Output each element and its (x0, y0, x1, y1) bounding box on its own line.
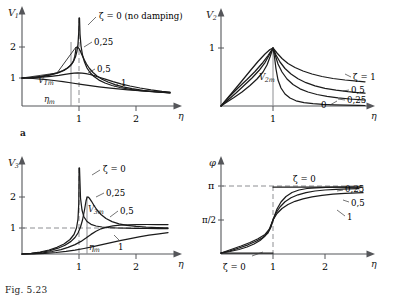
panel-d-ytick-pi: π (208, 180, 214, 191)
panel-d-curves (221, 187, 363, 253)
curve-d-zeta-025 (221, 187, 359, 253)
panel-d-curve-label-05: 0,5 (351, 198, 365, 208)
panel-a-curve-label-1: 1 (121, 78, 126, 88)
figure-caption: Fig. 5.23 (5, 285, 47, 295)
panel-b-ylabel: V2 (206, 9, 217, 22)
panel-c: V3 η 1 2 1 2 ζ = 0 0,25 0,5 1 V3m ηm c (0, 140, 197, 290)
panel-c-leaders (92, 170, 120, 241)
curve-b-zeta-05 (221, 48, 365, 106)
panel-c-xtick-2: 2 (133, 261, 139, 272)
panel-d-guides (221, 186, 363, 254)
panel-b-peak-label: V2m (259, 72, 275, 84)
panel-b-xtick-1: 1 (270, 113, 276, 124)
panel-d-curve-label-025: 0,25 (345, 184, 364, 194)
panel-a-zeta-zero-label: ζ = 0 (no damping) (99, 11, 183, 21)
panel-a-xtick-2: 2 (133, 113, 139, 124)
curve-d-zeta-05 (221, 189, 359, 253)
panel-c-ytick-2: 2 (10, 191, 16, 202)
panel-d-ylabel: φ (209, 157, 216, 168)
curve-d-zeta-1 (221, 193, 363, 253)
panel-b-xlabel: η (371, 110, 377, 121)
panel-a-curve-label-05: 0,5 (97, 64, 111, 74)
panel-a-ytick-2: 2 (10, 41, 16, 52)
panel-b-curve-label-025: 0,25 (347, 95, 366, 105)
panel-a-ytick-1: 1 (10, 72, 16, 83)
panel-a-xtick-1: 1 (76, 113, 82, 124)
panel-c-xlabel: η (178, 258, 184, 269)
panel-a-eta-m-label: ηm (44, 94, 55, 106)
panel-d-xtick-1: 1 (270, 261, 276, 272)
panel-b-zeta-one-label: ζ = 1 (353, 72, 376, 82)
panel-c-curve-label-1: 1 (118, 242, 123, 252)
curve-b-zeta-1 (221, 48, 365, 106)
panel-a-xlabel: η (178, 110, 184, 121)
panel-d-zeta-zero-bottom-label: ζ = 0 (223, 262, 246, 272)
panel-letter-a: a (20, 128, 26, 138)
panel-b-curve-label-05: 0,5 (351, 85, 365, 95)
panel-d-labels: φ η π π/2 1 2 ζ = 0 0,25 0,5 1 ζ = 0 (202, 157, 377, 272)
panel-d-plot: φ η π π/2 1 2 ζ = 0 0,25 0,5 1 ζ = 0 (197, 140, 394, 290)
curve-b-zeta-0 (221, 48, 365, 106)
panel-b: V2 η 1 1 V2m ζ = 1 0,5 0,25 0 b (197, 0, 394, 151)
panel-a-curve-label-025: 0,25 (94, 37, 113, 47)
panel-d-xtick-2: 2 (322, 261, 328, 272)
panel-a-ylabel: V1 (8, 7, 19, 20)
panel-c-peak-label: V3m (88, 204, 104, 216)
panel-c-zeta-zero-label: ζ = 0 (103, 164, 126, 174)
panel-c-eta-m-label: ηm (89, 242, 100, 254)
panel-b-plot: V2 η 1 1 V2m ζ = 1 0,5 0,25 0 (197, 0, 394, 151)
panel-d-ytick-pi-half: π/2 (202, 215, 216, 225)
panel-d: φ η π π/2 1 2 ζ = 0 0,25 0,5 1 ζ = 0 d (197, 140, 394, 290)
panel-b-curves (221, 48, 365, 106)
panel-c-labels: V3 η 1 2 1 2 ζ = 0 0,25 0,5 1 V3m ηm (8, 157, 184, 272)
panel-b-ytick-1: 1 (209, 42, 215, 53)
panel-d-zeta-zero-top-label: ζ = 0 (293, 174, 316, 184)
panel-a: V1 η 1 2 1 2 ζ = 0 (no damping) 0,25 0,5… (0, 0, 197, 151)
panel-d-xlabel: η (371, 258, 377, 269)
panel-c-ytick-1: 1 (10, 222, 16, 233)
panel-a-plot: V1 η 1 2 1 2 ζ = 0 (no damping) 0,25 0,5… (0, 0, 197, 151)
panel-c-curve-label-05: 0,5 (120, 206, 134, 216)
panel-b-zeta-zero-label: 0 (321, 100, 326, 110)
panel-a-leaders (84, 17, 119, 87)
panel-c-ylabel: V3 (8, 157, 19, 170)
curve-b-zeta-025 (221, 48, 365, 106)
curve-c-zeta-0-right (80, 168, 169, 229)
panel-c-plot: V3 η 1 2 1 2 ζ = 0 0,25 0,5 1 V3m ηm (0, 140, 197, 290)
panel-c-curve-label-025: 0,25 (106, 188, 125, 198)
panel-d-curve-label-1: 1 (347, 212, 352, 222)
figure-5-23: V1 η 1 2 1 2 ζ = 0 (no damping) 0,25 0,5… (0, 0, 394, 302)
panel-c-xtick-1: 1 (76, 261, 82, 272)
panel-b-labels: V2 η 1 1 V2m ζ = 1 0,5 0,25 0 (206, 9, 377, 124)
